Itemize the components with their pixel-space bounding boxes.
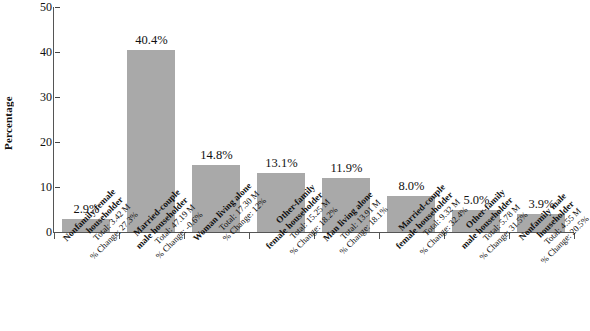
y-axis-ticks: 01020304050: [0, 0, 60, 240]
y-axis-tick-label: 20: [0, 135, 60, 149]
bar-value-label: 40.4%: [119, 33, 184, 48]
bar-value-label: 14.8%: [184, 148, 249, 163]
y-axis-tick-label: 50: [0, 0, 60, 14]
bar-value-label: 13.1%: [249, 156, 314, 171]
y-axis-tick-label: 30: [0, 90, 60, 104]
x-axis-labels: Nonfamily femalehouseholderTotal: 3.42 M…: [0, 236, 580, 331]
y-axis-tick-label: 40: [0, 45, 60, 59]
bar-value-label: 11.9%: [314, 161, 379, 176]
y-axis-tick-label: 10: [0, 180, 60, 194]
